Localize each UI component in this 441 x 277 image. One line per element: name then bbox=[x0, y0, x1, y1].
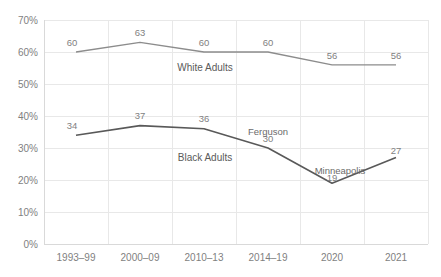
data-label: 60 bbox=[199, 37, 210, 48]
data-label: 34 bbox=[67, 120, 78, 131]
annotation-minneapolis: Minneapolis bbox=[315, 165, 366, 176]
data-label: 63 bbox=[135, 27, 146, 38]
data-label: 56 bbox=[327, 50, 338, 61]
data-label: 60 bbox=[67, 37, 78, 48]
data-label: 60 bbox=[263, 37, 274, 48]
data-label: 27 bbox=[391, 145, 402, 156]
data-label: 56 bbox=[391, 50, 402, 61]
series-label-black-adults: Black Adults bbox=[178, 152, 232, 163]
chart-container: 70% 60% 50% 40% 30% 20% 10% 0% 1993–99 2… bbox=[0, 0, 441, 277]
line-white-adults bbox=[76, 42, 396, 64]
data-label: 36 bbox=[199, 113, 210, 124]
series-label-white-adults: White Adults bbox=[177, 62, 233, 73]
data-label: 37 bbox=[135, 110, 146, 121]
annotation-ferguson: Ferguson bbox=[248, 126, 288, 137]
